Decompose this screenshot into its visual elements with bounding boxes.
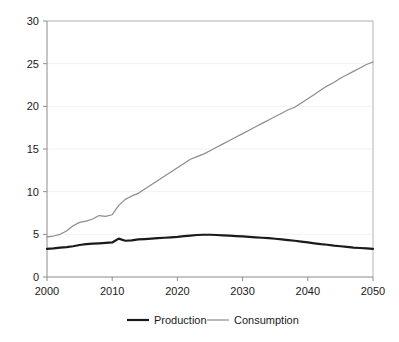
y-tick-label: 10 xyxy=(27,186,39,198)
x-tick-label: 2050 xyxy=(361,285,385,297)
x-tick-label: 2030 xyxy=(230,285,254,297)
chart-background xyxy=(0,0,399,342)
line-chart: 051015202530 200020102020203020402050 Pr… xyxy=(0,0,399,342)
x-tick-label: 2000 xyxy=(35,285,59,297)
y-tick-label: 30 xyxy=(27,15,39,27)
x-tick-label: 2010 xyxy=(100,285,124,297)
chart-figure: 051015202530 200020102020203020402050 Pr… xyxy=(0,0,399,342)
y-tick-label: 25 xyxy=(27,58,39,70)
x-tick-label: 2020 xyxy=(165,285,189,297)
legend-label-production: Production xyxy=(154,314,207,326)
y-tick-label: 15 xyxy=(27,143,39,155)
legend-label-consumption: Consumption xyxy=(234,314,299,326)
y-tick-label: 5 xyxy=(33,228,39,240)
x-tick-label: 2040 xyxy=(296,285,320,297)
y-tick-label: 20 xyxy=(27,100,39,112)
y-tick-label: 0 xyxy=(33,271,39,283)
